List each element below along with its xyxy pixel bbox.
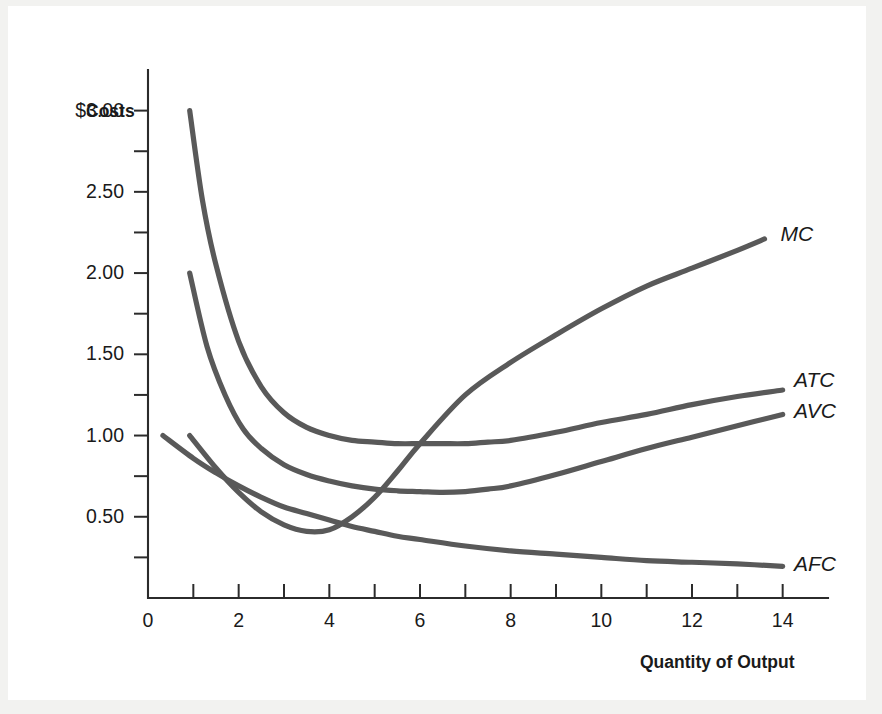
- curve-label-mc: MC: [780, 222, 813, 245]
- curve-label-afc: AFC: [792, 552, 837, 575]
- x-tick-label: 14: [772, 609, 794, 631]
- y-tick-label: 2.00: [86, 261, 124, 283]
- x-tick-label: 2: [233, 609, 244, 631]
- y-tick-label: 2.50: [86, 180, 124, 202]
- axis-ticks: [134, 111, 783, 598]
- x-tick-label: 12: [681, 609, 703, 631]
- x-tick-label: 10: [590, 609, 612, 631]
- cost-curves: [163, 111, 783, 567]
- curve-labels: MCATCAVCAFC: [780, 222, 836, 575]
- y-tick-label: 1.00: [86, 424, 124, 446]
- x-axis-tick-labels: 02468101214: [143, 609, 794, 631]
- y-axis-title: Costs: [86, 101, 135, 121]
- axis-lines: [148, 70, 828, 598]
- y-axis-tick-labels: 0.501.001.502.002.50$3.00: [75, 99, 124, 527]
- x-tick-label: 8: [505, 609, 516, 631]
- y-tick-label: 0.50: [86, 505, 124, 527]
- figure-container: 0.501.001.502.002.50$3.00 02468101214 MC…: [0, 0, 882, 714]
- x-tick-label: 0: [143, 609, 154, 631]
- y-tick-label: 1.50: [86, 342, 124, 364]
- cost-curves-chart: 0.501.001.502.002.50$3.00 02468101214 MC…: [0, 0, 882, 714]
- curve-label-avc: AVC: [792, 399, 837, 422]
- axes: [148, 70, 828, 598]
- x-tick-label: 4: [324, 609, 335, 631]
- x-axis-title: Quantity of Output: [640, 652, 795, 672]
- curve-label-atc: ATC: [792, 368, 835, 391]
- curve-avc: [190, 273, 783, 492]
- x-tick-label: 6: [415, 609, 426, 631]
- curve-atc: [190, 111, 783, 444]
- curve-afc: [163, 436, 783, 567]
